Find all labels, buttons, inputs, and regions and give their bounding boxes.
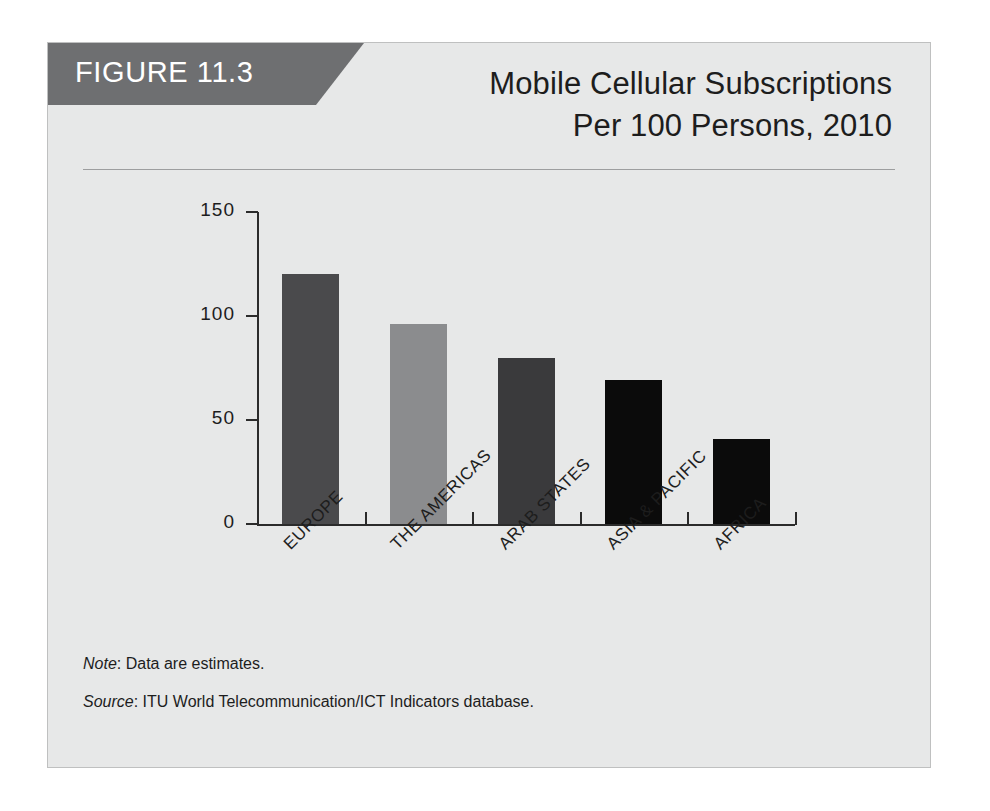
y-tick-mark (246, 419, 258, 421)
y-tick-label: 100 (200, 303, 235, 325)
x-tick-mark (365, 512, 367, 525)
x-tick-mark (795, 512, 797, 525)
source-footnote: Source: ITU World Telecommunication/ICT … (83, 693, 534, 711)
x-tick-mark (687, 512, 689, 525)
note-footnote: Note: Data are estimates. (83, 655, 264, 673)
bar-europe (282, 274, 339, 524)
note-text: : Data are estimates. (117, 655, 265, 672)
y-tick-mark (246, 315, 258, 317)
y-tick-label: 150 (200, 199, 235, 221)
source-label: Source (83, 693, 134, 710)
figure-panel: FIGURE 11.3 Mobile Cellular Subscription… (47, 42, 931, 768)
y-axis-line (257, 212, 259, 526)
x-tick-mark (580, 512, 582, 525)
y-tick-mark (246, 211, 258, 213)
x-tick-mark (257, 512, 259, 525)
note-label: Note (83, 655, 117, 672)
y-tick-label: 50 (212, 407, 235, 429)
y-tick-label: 0 (223, 511, 235, 533)
source-text: : ITU World Telecommunication/ICT Indica… (134, 693, 534, 710)
x-tick-mark (472, 512, 474, 525)
